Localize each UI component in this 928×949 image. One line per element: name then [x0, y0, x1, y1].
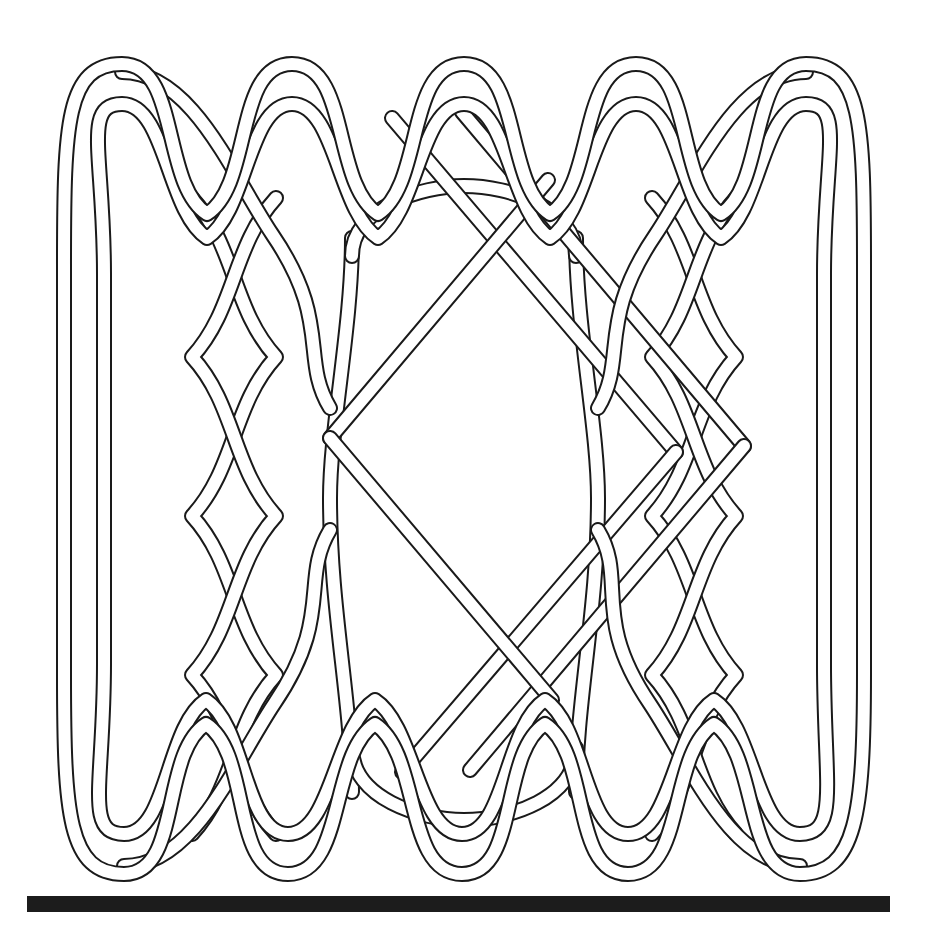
strand-center-right-pillar	[576, 238, 598, 792]
knot-figure-page	[0, 0, 928, 949]
baseline-bar	[27, 896, 890, 912]
strand-center-bottom-arc	[352, 748, 576, 820]
celtic-knot-drawing	[0, 0, 928, 949]
knot-pattern-layer	[64, 64, 864, 874]
strand-diagonal-up-right-1	[330, 438, 552, 700]
strand-center-left-pillar	[330, 238, 352, 792]
